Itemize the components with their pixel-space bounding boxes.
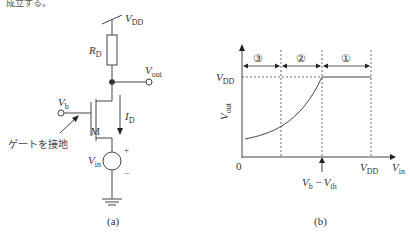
annotation-text: ゲートを接地 — [8, 138, 68, 150]
vout-terminal — [146, 79, 152, 85]
region-3-label: ③ — [253, 52, 263, 64]
current-arrow-icon — [117, 128, 123, 135]
origin-label: 0 — [236, 160, 242, 172]
vout-curve — [245, 77, 322, 139]
y-axis-label: Vout — [218, 102, 233, 120]
y-axis-arrow-icon — [239, 44, 245, 51]
region-1-label: ① — [341, 52, 351, 64]
x-marker-label: Vb −Vth — [302, 176, 337, 191]
caption-b: (b) — [314, 215, 327, 228]
vout-label: Vout — [145, 64, 163, 79]
caption-a: (a) — [107, 215, 120, 228]
header-fragment: 成立する。 — [6, 0, 51, 8]
voltage-source-vin — [103, 152, 121, 170]
plus-sign: + — [124, 145, 129, 155]
circuit-diagram — [58, 15, 152, 205]
id-label: ID — [124, 110, 135, 125]
x-axis-arrow-icon — [390, 154, 396, 160]
vin-label: Vin — [88, 154, 101, 169]
resistor-rd — [107, 35, 117, 65]
marker-arrow-icon — [319, 157, 325, 163]
vb-label: Vb — [58, 96, 69, 111]
transistor-label: M — [91, 126, 100, 137]
vdd-label: VDD — [125, 12, 144, 27]
figure: 成立する。 — [0, 0, 410, 238]
vb-terminal — [58, 110, 64, 116]
x-axis-label: Vin — [392, 161, 405, 176]
rd-label: RD — [88, 44, 102, 59]
x-tick-vdd: VDD — [360, 161, 379, 176]
y-tick-vdd: VDD — [216, 71, 235, 86]
minus-sign: − — [124, 168, 129, 178]
region-2-label: ② — [296, 52, 306, 64]
